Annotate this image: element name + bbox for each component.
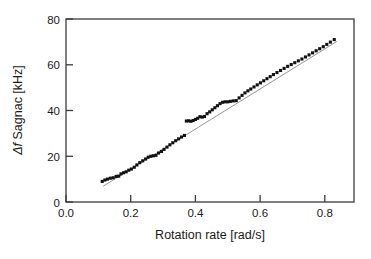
data-point — [238, 96, 241, 99]
data-point — [157, 151, 160, 154]
data-point — [290, 63, 293, 66]
svg-text:Δf Sagnac [kHz]: Δf Sagnac [kHz] — [11, 65, 25, 156]
data-point — [322, 45, 325, 48]
x-tick-label-0.0: 0.0 — [58, 207, 74, 219]
data-point — [304, 55, 307, 58]
data-point — [307, 53, 310, 56]
sagnac-frequency-chart: 80 60 40 20 0 0.0 0.2 0.4 0.6 0.8 Rotati… — [0, 0, 371, 259]
data-point — [232, 99, 235, 102]
data-point — [240, 94, 243, 97]
data-point — [300, 57, 303, 60]
y-tick-label-80: 80 — [47, 14, 60, 26]
x-tick-labels: 0.0 0.2 0.4 0.6 0.8 — [58, 207, 333, 219]
data-point — [203, 115, 206, 118]
data-point — [183, 134, 186, 137]
data-point — [138, 161, 141, 164]
data-point — [256, 83, 259, 86]
data-point — [333, 38, 336, 41]
data-point — [311, 51, 314, 54]
data-point — [329, 41, 332, 44]
data-point — [141, 159, 144, 162]
data-point — [246, 89, 249, 92]
data-point — [252, 85, 255, 88]
x-tick-label-0.8: 0.8 — [317, 207, 333, 219]
y-axis-title-rest: Sagnac [kHz] — [11, 65, 25, 143]
data-point — [293, 61, 296, 64]
data-point — [262, 79, 265, 82]
data-point — [106, 178, 109, 181]
x-tick-label-0.4: 0.4 — [187, 207, 204, 219]
y-tick-label-40: 40 — [47, 105, 60, 117]
data-point — [168, 143, 171, 146]
data-point — [174, 139, 177, 142]
data-point — [171, 141, 174, 144]
data-point — [272, 73, 275, 76]
data-point — [109, 177, 112, 180]
data-point — [135, 163, 138, 166]
y-tick-labels: 80 60 40 20 0 — [47, 14, 60, 209]
x-axis-title: Rotation rate [rad/s] — [155, 228, 265, 242]
data-point — [265, 77, 268, 80]
x-tick-label-0.2: 0.2 — [123, 207, 139, 219]
data-point — [269, 75, 272, 78]
data-point — [243, 91, 246, 94]
data-point — [259, 81, 262, 84]
data-point — [180, 135, 183, 138]
data-point — [112, 176, 115, 179]
data-point — [283, 67, 286, 70]
data-point — [249, 87, 252, 90]
data-point — [162, 148, 165, 151]
data-point — [275, 71, 278, 74]
data-point — [286, 65, 289, 68]
x-tick-label-0.6: 0.6 — [252, 207, 268, 219]
data-point — [177, 137, 180, 140]
data-point — [318, 47, 321, 50]
data-point — [130, 168, 133, 171]
y-tick-label-60: 60 — [47, 59, 60, 71]
data-point — [297, 59, 300, 62]
data-point — [235, 99, 238, 102]
data-point — [325, 43, 328, 46]
data-point — [279, 69, 282, 72]
data-point — [229, 100, 232, 103]
data-point — [315, 49, 318, 52]
data-point — [165, 146, 168, 149]
y-axis-title: Δf Sagnac [kHz] — [11, 65, 25, 156]
y-tick-label-20: 20 — [47, 151, 60, 163]
chart-canvas: 80 60 40 20 0 0.0 0.2 0.4 0.6 0.8 Rotati… — [0, 0, 371, 259]
